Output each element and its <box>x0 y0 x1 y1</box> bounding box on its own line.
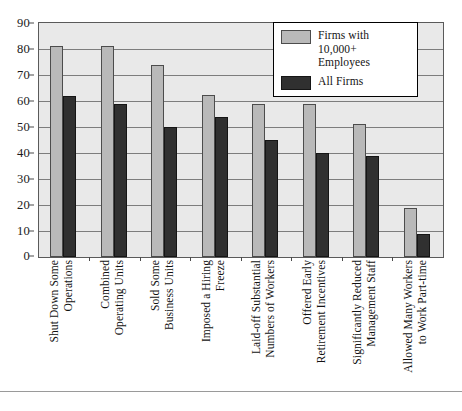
x-tick-label: Significantly Reduced Management Staff <box>352 260 370 384</box>
y-tick-mark <box>29 204 34 205</box>
x-label-line2: Management Staff <box>366 260 378 384</box>
bar-group <box>39 23 90 257</box>
x-tick-label: Imposed a Hiring Freeze <box>201 260 219 384</box>
legend-item-large-firms[interactable]: Firms with 10,000+Employees <box>281 29 410 70</box>
bar-dark[interactable] <box>114 104 127 257</box>
y-axis: 90 80 70 60 50 40 30 20 10 0 <box>0 22 34 258</box>
legend-label-line1: All Firms <box>318 75 363 87</box>
bar-dark[interactable] <box>417 234 430 257</box>
x-label-line2: Retirement Incentives <box>316 260 328 384</box>
x-tick-label: Combined Operating Units <box>100 260 118 384</box>
bar-light[interactable] <box>101 46 114 257</box>
chart-legend: Firms with 10,000+Employees All Firms <box>273 22 418 97</box>
legend-label: Firms with 10,000+Employees <box>318 29 410 70</box>
bar-dark[interactable] <box>366 156 379 257</box>
x-label-line2: Operations <box>63 260 75 384</box>
x-label-line1: Imposed a Hiring <box>200 260 212 342</box>
legend-swatch-icon <box>281 76 311 90</box>
x-label-line1: Shut Down Some <box>48 260 60 343</box>
x-label-line1: Combined <box>99 260 111 309</box>
x-label-line1: Sold Some <box>149 260 161 311</box>
y-tick-mark <box>29 100 34 101</box>
x-axis: Shut Down Some Operations Combined Opera… <box>39 260 443 384</box>
bar-chart-figure: 90 80 70 60 50 40 30 20 10 0 <box>0 0 462 411</box>
x-tick-label: Offered Early Retirement Incentives <box>302 260 320 384</box>
bar-light[interactable] <box>151 65 164 257</box>
x-label-line2: Freeze <box>215 260 227 384</box>
bar-dark[interactable] <box>164 127 177 257</box>
x-tick-label: Allowed Many Workers to Work Part-time <box>403 260 421 384</box>
y-tick-mark <box>29 230 34 231</box>
x-tick-label: Sold Some Business Units <box>150 260 168 384</box>
bar-group <box>90 23 141 257</box>
bar-group <box>191 23 242 257</box>
x-label-line2: Operating Units <box>114 260 126 384</box>
x-tick-label: Shut Down Some Operations <box>49 260 67 384</box>
bar-light[interactable] <box>303 104 316 257</box>
x-label-line1: Significantly Reduced <box>351 260 363 365</box>
bar-dark[interactable] <box>215 117 228 257</box>
bar-group <box>140 23 191 257</box>
x-label-line2: to Work Part-time <box>417 260 429 384</box>
x-label-line1: Laid-off Substantial <box>250 260 262 354</box>
legend-label: All Firms <box>318 75 363 89</box>
legend-label-line1: Firms with 10,000+ <box>318 29 369 55</box>
x-label-line1: Allowed Many Workers <box>402 260 414 373</box>
bar-light[interactable] <box>50 46 63 257</box>
x-label-line1: Offered Early <box>301 260 313 325</box>
y-tick-mark <box>29 23 34 24</box>
y-tick-mark <box>29 74 34 75</box>
bar-light[interactable] <box>404 208 417 257</box>
y-tick-mark <box>29 152 34 153</box>
legend-swatch-icon <box>281 30 311 44</box>
bar-light[interactable] <box>252 104 265 257</box>
y-tick-mark <box>29 256 34 257</box>
legend-item-all-firms[interactable]: All Firms <box>281 75 410 90</box>
y-tick-mark <box>29 126 34 127</box>
bar-dark[interactable] <box>316 153 329 257</box>
x-tick-label: Laid-off Substantial Numbers of Workers <box>251 260 269 384</box>
legend-label-line2: Employees <box>318 56 370 68</box>
footer-divider <box>0 391 462 392</box>
bar-light[interactable] <box>353 124 366 257</box>
y-tick-mark <box>29 178 34 179</box>
x-label-line2: Business Units <box>164 260 176 384</box>
bar-dark[interactable] <box>63 96 76 257</box>
x-label-line2: Numbers of Workers <box>265 260 277 384</box>
bar-light[interactable] <box>202 95 215 258</box>
bar-dark[interactable] <box>265 140 278 257</box>
y-tick-mark <box>29 49 34 50</box>
